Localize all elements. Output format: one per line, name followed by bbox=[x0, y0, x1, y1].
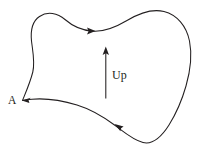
closed-curve-diagram-svg bbox=[0, 0, 203, 153]
up-direction-label: Up bbox=[112, 69, 127, 81]
closed-curve-icon bbox=[23, 11, 191, 143]
vertex-label-a: A bbox=[8, 95, 16, 107]
figure-canvas: A Up bbox=[0, 0, 203, 153]
orientation-arrowhead-left-icon bbox=[115, 124, 124, 131]
